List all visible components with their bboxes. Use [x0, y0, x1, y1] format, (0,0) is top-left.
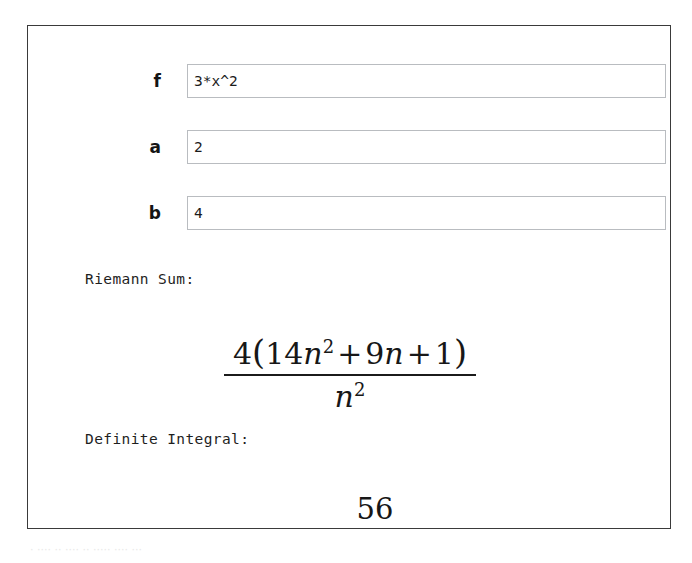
plus-operator-2: + [404, 336, 435, 371]
fraction: 4(14n2+9n+1) n2 [224, 334, 476, 414]
term2-variable: n [384, 336, 403, 371]
riemann-sum-caption: Riemann Sum: [85, 271, 195, 287]
definite-integral-result: 56 [28, 492, 672, 526]
field-label-f: f [28, 64, 174, 98]
function-input[interactable] [187, 64, 666, 98]
field-label-a: a [28, 130, 174, 164]
open-paren: ( [252, 333, 265, 372]
numerator-coefficient: 4 [233, 336, 252, 371]
field-label-b: b [28, 196, 174, 230]
denominator-variable: n [335, 379, 354, 414]
calculator-panel: f a b Riemann Sum: 4(14n2+9n+1) n2 Defin… [27, 25, 671, 529]
definite-integral-caption: Definite Integral: [85, 431, 249, 447]
field-row-b: b [28, 196, 670, 230]
field-row-a: a [28, 130, 670, 164]
upper-bound-input[interactable] [187, 196, 666, 230]
definite-integral-value: 56 [357, 492, 394, 526]
lower-bound-input[interactable] [187, 130, 666, 164]
fraction-numerator: 4(14n2+9n+1) [227, 334, 473, 374]
field-row-f: f [28, 64, 670, 98]
term1-exponent: 2 [323, 336, 334, 357]
denominator-exponent: 2 [354, 379, 365, 400]
term2-coefficient: 9 [365, 336, 384, 371]
term1-coefficient: 14 [265, 336, 303, 371]
fraction-denominator: n2 [329, 376, 372, 414]
close-paren: ) [454, 333, 467, 372]
page-bottom-artifact: · ···· ·· ···· ·· ····· ···· ··· [30, 543, 330, 556]
term3-constant: 1 [435, 336, 454, 371]
term1-variable: n [303, 336, 322, 371]
riemann-sum-formula: 4(14n2+9n+1) n2 [28, 334, 672, 414]
plus-operator-1: + [334, 336, 365, 371]
